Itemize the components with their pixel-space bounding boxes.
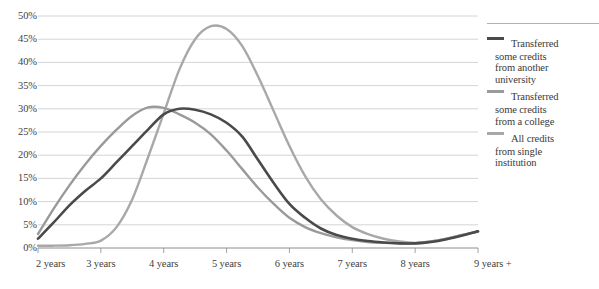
legend-label: Transferredsome creditsfrom a college [487, 91, 599, 127]
x-axis-tick-label: 7 years [338, 258, 367, 269]
legend-divider [487, 23, 599, 24]
x-axis-tick-label: 3 years [86, 258, 115, 269]
legend-label-line: Transferred [511, 38, 559, 49]
legend-label-line: from single [487, 146, 599, 157]
legend-entry[interactable]: Transferredsome creditsfrom a college [487, 86, 599, 127]
legend-color-swatch [487, 132, 504, 135]
x-axis-tick-label: 5 years [212, 258, 241, 269]
legend-color-swatch [487, 90, 504, 93]
legend-label-line: from another [487, 62, 599, 73]
legend-entry[interactable]: Transferredsome creditsfrom anotherunive… [487, 33, 599, 85]
legend-label-line: university [487, 74, 599, 85]
x-axis-tick-label: 6 years [275, 258, 304, 269]
legend-label-line: institution [487, 157, 599, 168]
x-axis-tick-label: 4 years [149, 258, 178, 269]
x-axis-tick-label: 9 years + [474, 258, 512, 269]
legend-label-line: some credits [487, 104, 599, 115]
legend-color-swatch [487, 37, 504, 40]
legend-label: Transferredsome creditsfrom anotherunive… [487, 38, 599, 85]
legend-label-line: Transferred [511, 91, 559, 102]
legend-label-line: from a college [487, 116, 599, 127]
x-axis-tick-label: 2 years [36, 258, 65, 269]
chart-legend: Transferredsome creditsfrom anotherunive… [487, 33, 599, 170]
line-chart: 0%5%10%15%20%25%30%35%40%45%50% 2 years3… [0, 0, 599, 289]
legend-label-line: some credits [487, 51, 599, 62]
legend-entry[interactable]: All creditsfrom singleinstitution [487, 128, 599, 169]
legend-label-line: All credits [511, 133, 554, 144]
x-axis-tick-label: 8 years [400, 258, 429, 269]
legend-label: All creditsfrom singleinstitution [487, 133, 599, 169]
